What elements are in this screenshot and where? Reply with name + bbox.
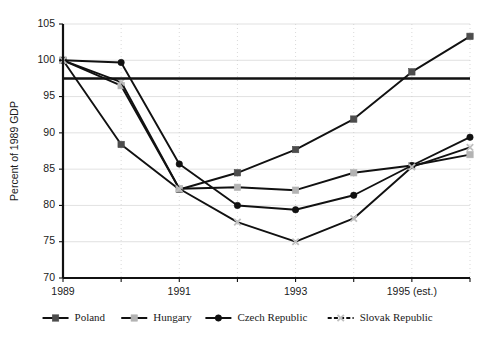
data-point	[351, 170, 357, 176]
chart-container: 707580859095100105 1989199119931995 (est…	[0, 0, 484, 337]
series-lines-group	[60, 33, 473, 245]
y-tick-label: 85	[43, 162, 55, 174]
horizontal-gridlines	[63, 24, 470, 242]
legend-item-slovak-republic[interactable]: Slovak Republic	[328, 311, 433, 323]
data-point	[351, 192, 357, 198]
data-point	[467, 134, 473, 140]
y-tick-label: 95	[43, 89, 55, 101]
legend-label: Slovak Republic	[360, 311, 433, 323]
y-tick-label: 100	[37, 53, 55, 65]
series-slovak-republic	[60, 57, 473, 245]
data-point	[118, 59, 124, 65]
x-tick-label: 1995 (est.)	[387, 285, 437, 297]
line-chart: 707580859095100105 1989199119931995 (est…	[0, 0, 484, 337]
data-point	[176, 161, 182, 167]
legend-label: Poland	[75, 311, 106, 323]
legend-label: Hungary	[153, 311, 192, 323]
y-tick-label: 90	[43, 126, 55, 138]
legend-marker	[52, 315, 58, 321]
y-axis-ticks: 707580859095100105	[37, 17, 63, 283]
data-point	[234, 170, 240, 176]
data-point	[292, 146, 298, 152]
data-point	[234, 202, 240, 208]
data-point	[118, 141, 124, 147]
x-tick-label: 1993	[284, 285, 308, 297]
data-point	[409, 69, 415, 75]
legend-marker	[215, 315, 221, 321]
x-axis-ticks: 1989199119931995 (est.)	[51, 278, 470, 297]
legend-item-czech-republic[interactable]: Czech Republic	[205, 311, 307, 323]
legend-item-poland[interactable]: Poland	[43, 311, 106, 323]
y-tick-label: 105	[37, 17, 55, 29]
x-tick-label: 1989	[51, 285, 75, 297]
x-tick-label: 1991	[168, 285, 192, 297]
data-point	[351, 116, 357, 122]
y-tick-label: 80	[43, 198, 55, 210]
data-point	[292, 207, 298, 213]
y-tick-label: 75	[43, 234, 55, 246]
y-axis-title: Percent of 1989 GDP	[8, 101, 20, 201]
legend-label: Czech Republic	[237, 311, 307, 323]
legend-marker	[131, 315, 137, 321]
data-point	[292, 187, 298, 193]
legend: PolandHungaryCzech RepublicSlovak Republ…	[43, 311, 433, 323]
data-point	[467, 151, 473, 157]
y-tick-label: 70	[43, 271, 55, 283]
data-point	[467, 33, 473, 39]
legend-item-hungary[interactable]: Hungary	[121, 311, 192, 323]
data-point	[234, 184, 240, 190]
series-path	[63, 60, 470, 241]
